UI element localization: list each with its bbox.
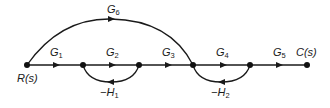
label-g4: G4 [216, 46, 229, 60]
label-h1: −H1 [100, 86, 119, 100]
label-h2: −H2 [211, 86, 230, 100]
label-g1: G1 [50, 46, 63, 60]
arrow-g5-icon [276, 62, 283, 68]
node-2 [80, 62, 86, 68]
node-5 [247, 62, 253, 68]
feedforward-arc-g6 [27, 19, 193, 65]
feedback-loop-h1 [83, 65, 139, 82]
node-4 [190, 62, 196, 68]
arrow-g3-icon [165, 62, 172, 68]
label-g6: G6 [107, 3, 120, 17]
label-input: R(s) [17, 72, 38, 84]
label-g3: G3 [162, 46, 175, 60]
arrow-g4-icon [220, 62, 227, 68]
label-output: C(s) [296, 46, 317, 58]
node-output [304, 62, 310, 68]
arrow-h1-icon [107, 79, 114, 85]
label-g2: G2 [106, 46, 119, 60]
node-3 [136, 62, 142, 68]
arrow-g6-icon [108, 16, 115, 22]
arrow-g2-icon [109, 62, 116, 68]
node-input [24, 62, 30, 68]
feedback-loop-h2 [193, 65, 250, 82]
signal-flow-graph: G6 G1 G2 G3 G4 G5 C(s) R(s) −H1 −H2 [0, 0, 330, 108]
arrow-g1-icon [53, 62, 60, 68]
arrow-h2-icon [218, 79, 225, 85]
label-g5: G5 [273, 46, 286, 60]
